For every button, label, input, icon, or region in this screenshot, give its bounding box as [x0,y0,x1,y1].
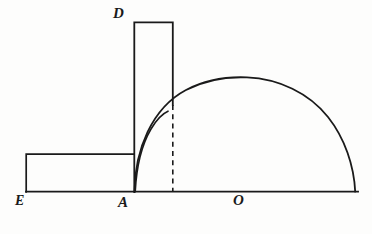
dome-arc [135,77,356,191]
label-a: A [118,195,129,210]
left-rectangle [26,154,134,192]
label-d: D [113,6,124,21]
diagram-svg [0,0,372,234]
label-e: E [15,194,25,208]
figure-canvas: E A O D [0,0,372,234]
tall-rectangle [134,22,173,192]
label-o: O [233,193,244,208]
